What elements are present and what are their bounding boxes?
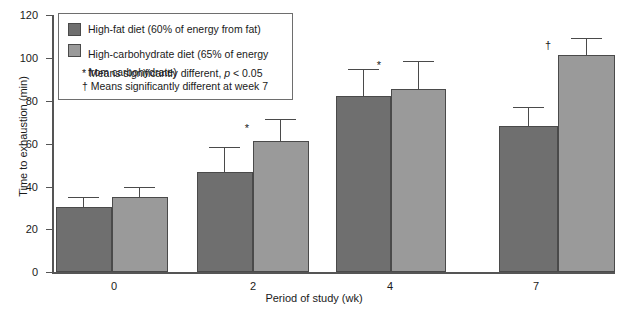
legend-note-dagger: † Means significantly different at week …	[82, 80, 288, 93]
y-tick-60	[46, 144, 52, 145]
errorbar-stem-highcarb-week2	[280, 119, 281, 142]
x-tick-label-2: 2	[233, 281, 273, 292]
y-tick-100	[46, 58, 52, 59]
errorbar-stem-highcarb-week7	[586, 38, 587, 56]
errorbar-stem-highcarb-week0	[139, 187, 140, 198]
y-tick-80	[46, 101, 52, 102]
bar-highfat-week4	[336, 96, 391, 272]
y-tick-0	[46, 272, 52, 273]
legend: High-fat diet (60% of energy from fat) H…	[58, 13, 293, 100]
x-tick-label-4: 4	[370, 281, 410, 292]
x-axis-title: Period of study (wk)	[0, 293, 628, 304]
errorbar-cap-highcarb-week2	[265, 119, 296, 120]
bar-highcarb-week0	[112, 197, 168, 272]
y-tick-120	[46, 15, 52, 16]
bar-highfat-week7	[499, 126, 558, 272]
bar-highcarb-week4	[391, 89, 446, 272]
bar-highcarb-week2	[253, 141, 309, 272]
y-axis-line	[52, 15, 54, 273]
legend-label-high-fat: High-fat diet (60% of energy from fat)	[88, 23, 261, 36]
y-tick-20	[46, 229, 52, 230]
y-axis-title: Time to exhaustion (min)	[18, 62, 29, 212]
errorbar-stem-highfat-week4	[363, 69, 364, 97]
y-tick-label-20: 20	[6, 224, 38, 235]
legend-note-asterisk-pre: * Means significantly different,	[82, 67, 224, 79]
bar-highcarb-week7	[558, 55, 615, 272]
bar-chart: 120 100 80 60 40 20 0 Time to exhaustion…	[0, 0, 628, 313]
errorbar-stem-highcarb-week4	[418, 61, 419, 90]
y-tick-label-120: 120	[6, 10, 38, 21]
errorbar-cap-highfat-week2	[209, 147, 240, 148]
legend-note-asterisk-post: < 0.05	[230, 67, 262, 79]
bar-highfat-week0	[56, 207, 112, 272]
significance-dagger-week7: †	[541, 40, 555, 51]
y-tick-label-0: 0	[6, 267, 38, 278]
errorbar-cap-highcarb-week7	[571, 38, 602, 39]
errorbar-cap-highcarb-week4	[403, 61, 434, 62]
legend-swatch-high-fat	[68, 23, 81, 36]
x-tick-label-0: 0	[94, 281, 134, 292]
bar-highfat-week2	[197, 172, 253, 272]
legend-note-asterisk: * Means significantly different, p < 0.0…	[82, 67, 288, 80]
x-axis-line	[52, 272, 615, 274]
errorbar-stem-highfat-week7	[528, 107, 529, 127]
legend-item-high-fat: High-fat diet (60% of energy from fat)	[68, 23, 286, 36]
legend-swatch-high-carbohydrate	[68, 44, 81, 57]
significance-asterisk-week4: *	[372, 60, 386, 71]
errorbar-cap-highcarb-week0	[124, 187, 155, 188]
significance-asterisk-week2: *	[240, 123, 254, 134]
errorbar-stem-highfat-week2	[224, 147, 225, 173]
errorbar-stem-highfat-week0	[83, 197, 84, 208]
errorbar-cap-highfat-week0	[68, 197, 99, 198]
y-tick-40	[46, 187, 52, 188]
legend-label-high-carbohydrate-line1: High-carbohydrate diet (65% of energy	[88, 48, 268, 60]
legend-significance-notes: * Means significantly different, p < 0.0…	[82, 67, 288, 93]
errorbar-cap-highfat-week7	[513, 107, 544, 108]
x-tick-label-7: 7	[516, 281, 556, 292]
